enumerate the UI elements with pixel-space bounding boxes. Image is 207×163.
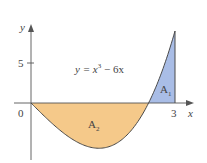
x-tick-label: 3 (171, 107, 177, 119)
y-tick-label: 5 (18, 57, 24, 69)
origin-label: 0 (18, 107, 24, 119)
equation-label: y = x3 − 6x (74, 62, 124, 75)
x-axis-arrow-icon (186, 100, 194, 106)
area-diagram: y 5 0 3 x y = x3 − 6x A1 A2 (0, 0, 207, 163)
x-axis-label: x (187, 107, 193, 119)
y-axis-label: y (19, 21, 25, 33)
y-axis-arrow-icon (28, 24, 34, 32)
